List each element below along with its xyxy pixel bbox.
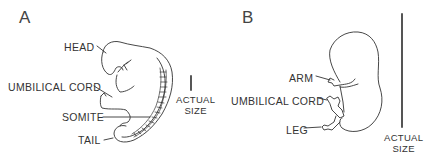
embryo-a-illustration [100, 41, 172, 142]
leader-leg [304, 127, 321, 128]
leader-umbilical-b [318, 98, 327, 100]
leader-tail [104, 138, 113, 140]
leader-umbilical-a [94, 86, 112, 97]
embryo-drawings [0, 0, 430, 154]
leader-arm [316, 76, 330, 80]
embryo-b-illustration [322, 32, 382, 132]
